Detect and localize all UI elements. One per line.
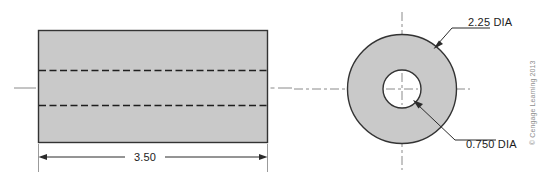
leader-line-outer-diameter xyxy=(437,28,490,45)
dimension-arrow-left xyxy=(39,154,48,160)
credit-group: © Cengage Learning 2013 xyxy=(529,60,537,145)
copyright-credit: © Cengage Learning 2013 xyxy=(529,60,537,145)
front-view-body-fill xyxy=(39,31,268,143)
drawing-svg: 3.50 2.25 DIA 0.750 DIA xyxy=(0,0,545,184)
side-view-group: 2.25 DIA 0.750 DIA xyxy=(294,12,517,170)
dimension-arrow-right xyxy=(259,154,268,160)
inner-diameter-label: 0.750 DIA xyxy=(466,138,517,150)
length-dimension-label: 3.50 xyxy=(134,151,156,163)
outer-diameter-label: 2.25 DIA xyxy=(468,16,513,28)
front-view-group: 3.50 xyxy=(14,31,292,173)
technical-drawing-canvas: 3.50 2.25 DIA 0.750 DIA xyxy=(0,0,545,184)
